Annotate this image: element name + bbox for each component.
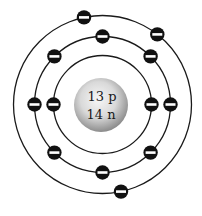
electron [143,145,157,159]
minus-sign-icon [152,33,162,36]
electron [27,97,41,111]
minus-sign-icon [98,171,108,174]
electron [143,49,157,63]
electron [95,29,109,43]
atom-diagram: 13 p 14 n [0,0,202,216]
minus-sign-icon [79,16,89,19]
minus-sign-icon [146,151,156,154]
minus-sign-icon [147,103,157,106]
minus-sign-icon [30,103,40,106]
minus-sign-icon [49,151,59,154]
minus-sign-icon [116,190,126,193]
electron [77,10,91,24]
electron [150,27,164,41]
minus-sign-icon [98,35,108,38]
minus-sign-icon [49,103,59,106]
electron [163,97,177,111]
nucleus: 13 p 14 n [74,78,128,132]
electron [47,49,61,63]
electron [46,97,60,111]
neutrons-label: 14 n [86,107,116,122]
minus-sign-icon [166,103,176,106]
electron [47,145,61,159]
electron [95,165,109,179]
minus-sign-icon [146,55,156,58]
electron [144,97,158,111]
nucleus-sphere [74,78,128,132]
protons-label: 13 p [88,89,117,104]
electron [114,184,128,198]
minus-sign-icon [49,55,59,58]
